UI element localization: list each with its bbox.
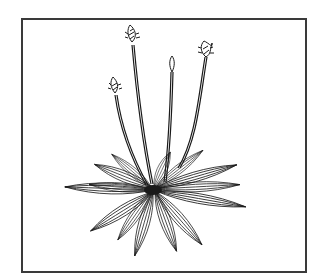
flower-head-right bbox=[198, 41, 214, 57]
flower-head-center bbox=[170, 56, 175, 72]
rosette-center bbox=[144, 185, 162, 195]
flower-head-left-low bbox=[108, 77, 122, 93]
plantain-drawing bbox=[0, 0, 322, 280]
flower-stalks bbox=[115, 45, 207, 185]
flower-heads bbox=[108, 25, 214, 93]
flower-head-tall-left bbox=[125, 25, 140, 42]
rosette-leaves bbox=[65, 147, 247, 257]
